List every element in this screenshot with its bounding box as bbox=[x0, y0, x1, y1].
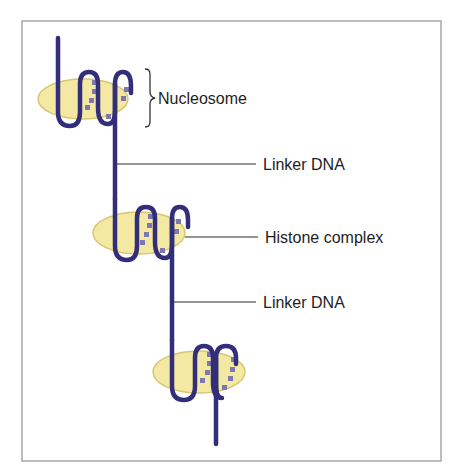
label-linker-dna-2: Linker DNA bbox=[263, 294, 345, 311]
label-nucleosome: Nucleosome bbox=[158, 90, 247, 107]
label-linker-dna-1: Linker DNA bbox=[263, 156, 345, 173]
label-histone-complex: Histone complex bbox=[265, 229, 383, 246]
chromatin-diagram: Nucleosome Linker DNA Histone complex Li… bbox=[0, 0, 463, 476]
